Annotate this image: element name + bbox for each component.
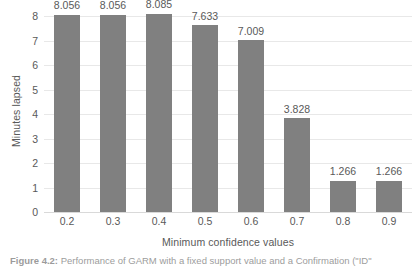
- x-axis-tick-label: 0.5: [198, 216, 213, 227]
- bar-series: 8.0568.0568.0857.6337.0093.8281.2661.266: [44, 16, 412, 212]
- axis-baseline: [44, 212, 412, 213]
- y-axis-tick-label: 0: [22, 207, 38, 218]
- bar[interactable]: [330, 181, 356, 212]
- bar-slot: 1.266: [366, 16, 412, 212]
- y-axis-tick-label: 6: [22, 60, 38, 71]
- bar-value-label: 1.266: [376, 166, 402, 177]
- bar[interactable]: [54, 15, 80, 212]
- y-axis-tick-label: 4: [22, 109, 38, 120]
- figure-caption: Figure 4.2: Performance of GARM with a f…: [10, 255, 414, 266]
- y-axis-tick-label: 5: [22, 84, 38, 95]
- x-axis-tick-label: 0.2: [60, 216, 75, 227]
- y-axis-tick-label: 1: [22, 182, 38, 193]
- bar[interactable]: [376, 181, 402, 212]
- bar-value-label: 8.056: [100, 0, 126, 11]
- x-axis-tick-label: 0.9: [382, 216, 397, 227]
- bar-value-label: 1.266: [330, 166, 356, 177]
- bar-slot: 1.266: [320, 16, 366, 212]
- y-axis-tick-label: 2: [22, 158, 38, 169]
- x-axis-tick-label: 0.8: [336, 216, 351, 227]
- bar-value-label: 8.056: [54, 0, 80, 11]
- figure-caption-text: Performance of GARM with a fixed support…: [61, 255, 372, 266]
- bar-value-label: 8.085: [146, 0, 172, 10]
- figure-caption-strip: Figure 4.2: Performance of GARM with a f…: [0, 255, 419, 267]
- bar-slot: 7.009: [228, 16, 274, 212]
- bar[interactable]: [146, 14, 172, 212]
- bar-slot: 7.633: [182, 16, 228, 212]
- x-axis-tick-label: 0.3: [106, 216, 121, 227]
- bar-slot: 3.828: [274, 16, 320, 212]
- y-axis-tick-label: 7: [22, 35, 38, 46]
- x-axis-tick-labels: 0.20.30.40.50.60.70.80.9: [44, 216, 412, 230]
- bar-slot: 8.056: [90, 16, 136, 212]
- y-axis-title: Minutes lapsed: [10, 41, 22, 181]
- bar[interactable]: [100, 15, 126, 212]
- bar-slot: 8.085: [136, 16, 182, 212]
- figure-container: Minutes lapsed 012345678 8.0568.0568.085…: [0, 0, 419, 267]
- x-axis-tick-label: 0.7: [290, 216, 305, 227]
- x-axis-tick-label: 0.4: [152, 216, 167, 227]
- y-axis-tick-labels: 012345678: [22, 16, 38, 212]
- bar-value-label: 7.009: [238, 26, 264, 37]
- bar-slot: 8.056: [44, 16, 90, 212]
- bar[interactable]: [238, 40, 264, 212]
- y-axis-tick-label: 8: [22, 11, 38, 22]
- x-axis-title: Minimum confidence values: [44, 236, 412, 248]
- bar[interactable]: [284, 118, 310, 212]
- figure-caption-label: Figure 4.2:: [10, 255, 58, 266]
- bar-value-label: 3.828: [284, 104, 310, 115]
- bar-chart: Minutes lapsed 012345678 8.0568.0568.085…: [0, 0, 419, 252]
- x-axis-tick-label: 0.6: [244, 216, 259, 227]
- bar[interactable]: [192, 25, 218, 212]
- y-axis-tick-label: 3: [22, 133, 38, 144]
- plot-area: 8.0568.0568.0857.6337.0093.8281.2661.266: [44, 16, 412, 212]
- bar-value-label: 7.633: [192, 11, 218, 22]
